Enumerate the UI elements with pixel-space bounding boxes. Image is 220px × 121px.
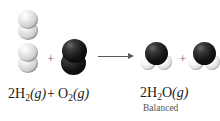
molecular-model-row: + + bbox=[0, 0, 220, 80]
oxygen-atom-sphere bbox=[193, 42, 216, 65]
water-molecule-1 bbox=[140, 42, 172, 72]
equation-plus-sign: + bbox=[47, 86, 55, 102]
arrow-shaft bbox=[98, 56, 129, 57]
chemical-equation-row: 2H2(g) + O2(g) 2H2O(g) Balanced bbox=[0, 82, 220, 121]
equation-reactant-hydrogen: 2H2(g) bbox=[8, 86, 46, 106]
element-symbol-water-o: O bbox=[162, 85, 172, 100]
oxygen-molecule-1 bbox=[61, 39, 87, 75]
plus-sign-reactants: + bbox=[47, 52, 54, 65]
coefficient-water: 2 bbox=[140, 85, 147, 100]
equation-reactant-oxygen: O2(g) bbox=[58, 86, 89, 106]
arrow-head bbox=[128, 53, 134, 59]
hydrogen-atom-sphere bbox=[18, 10, 38, 29]
plus-sign-products: + bbox=[179, 52, 186, 65]
oxygen-atom-sphere bbox=[145, 42, 168, 65]
state-symbol-hydrogen: (g) bbox=[30, 86, 46, 101]
hydrogen-molecule-2 bbox=[18, 43, 38, 73]
hydrogen-atom-sphere bbox=[18, 43, 38, 62]
yields-arrow-icon-models bbox=[98, 52, 134, 61]
state-symbol-water: (g) bbox=[172, 85, 188, 100]
equation-product-water: 2H2O(g) bbox=[140, 85, 188, 105]
balanced-label: Balanced bbox=[143, 103, 178, 114]
element-symbol-water-h: H bbox=[147, 85, 157, 100]
element-symbol-oxygen: O bbox=[58, 86, 68, 101]
water-molecule-2 bbox=[188, 42, 220, 72]
oxygen-atom-sphere bbox=[62, 39, 87, 63]
element-symbol-hydrogen: H bbox=[15, 86, 25, 101]
coefficient-hydrogen: 2 bbox=[8, 86, 15, 101]
hydrogen-molecule-1 bbox=[18, 10, 38, 40]
reaction-diagram-figure: + + 2H2(g) + O2(g) bbox=[0, 0, 220, 121]
state-symbol-oxygen: (g) bbox=[73, 86, 89, 101]
